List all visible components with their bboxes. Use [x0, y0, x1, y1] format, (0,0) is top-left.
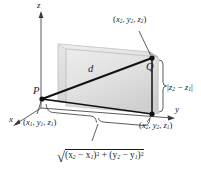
- y-axis-label: y: [175, 105, 179, 114]
- box-prism: [42, 44, 158, 114]
- z-axis-label: z: [37, 1, 41, 10]
- point-P-dot: [39, 96, 44, 101]
- figure-distance-3d: z y x P Q d (x2, y2, z2) (x1, y1, z1) (x…: [0, 0, 201, 177]
- coord-label-Q: (x2, y2, z2): [113, 15, 146, 25]
- distance-d-label: d: [88, 64, 93, 75]
- horizontal-leg-label: √(x2 − x1)2 + (y2 − y1)2: [57, 147, 144, 162]
- z-axis-arrow: [39, 11, 44, 18]
- coord-label-P: (x1, y1, z1): [23, 118, 56, 128]
- point-P-label: P: [33, 86, 39, 97]
- coord-label-base: (x2, y2, z1): [139, 121, 172, 131]
- leader-to-P: [37, 102, 41, 115]
- x-axis-arrow: [13, 119, 21, 126]
- vertical-leg-brace: [159, 60, 167, 112]
- vertical-leg-label: |z2 − z1|: [167, 83, 193, 93]
- point-base-dot: [149, 111, 154, 116]
- x-axis-label: x: [9, 115, 13, 124]
- horizontal-brace-stem: [92, 124, 98, 141]
- point-Q-label: Q: [146, 62, 154, 73]
- point-Q-dot: [149, 55, 154, 60]
